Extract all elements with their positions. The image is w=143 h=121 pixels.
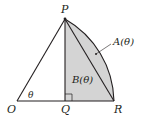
label-P: P bbox=[60, 3, 69, 16]
label-R: R bbox=[113, 103, 122, 116]
label-theta: θ bbox=[28, 90, 34, 100]
leader-dot-A bbox=[95, 53, 97, 55]
label-Q: Q bbox=[61, 103, 70, 116]
segment-OP bbox=[17, 19, 65, 101]
leader-line-A bbox=[96, 44, 111, 54]
label-A-theta: A(θ) bbox=[112, 36, 134, 47]
point-P-dot bbox=[64, 18, 67, 21]
sector-diagram: P O Q R θ A(θ) B(θ) bbox=[0, 0, 143, 121]
label-O: O bbox=[7, 103, 16, 116]
label-B-theta: B(θ) bbox=[71, 74, 93, 85]
